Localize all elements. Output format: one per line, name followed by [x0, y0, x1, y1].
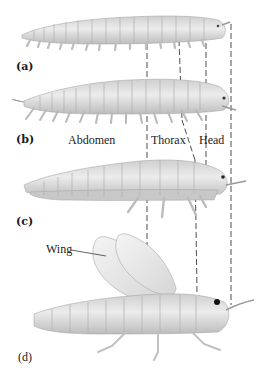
panel-label-b: (b)	[16, 134, 40, 145]
organism-c	[24, 160, 246, 217]
region-label-thorax: Thorax	[151, 134, 191, 146]
panel-label-c: (c)	[16, 216, 40, 227]
arthropod-evolution-diagram: (a) (b) Abdomen Thorax	[0, 0, 264, 374]
panel-label-a: (a)	[16, 61, 40, 72]
organism-a	[22, 16, 230, 50]
region-label-abdomen: Abdomen	[68, 134, 128, 146]
region-label-head: Head	[199, 134, 233, 146]
callout-label-wing: Wing	[46, 243, 76, 255]
panel-label-d: (d)	[18, 351, 42, 363]
organism-b	[12, 79, 236, 123]
